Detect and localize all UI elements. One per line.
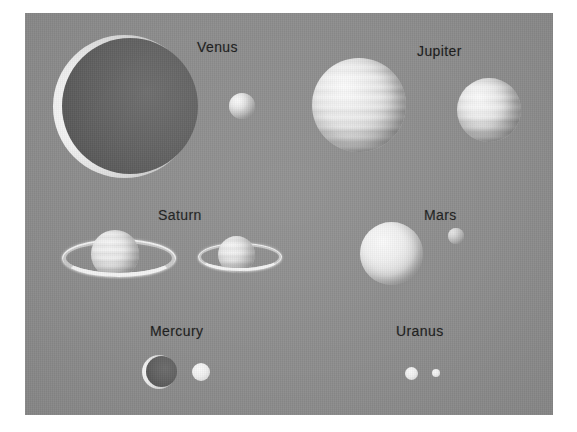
planet-uranus-large <box>405 367 418 380</box>
label-mercury: Mercury <box>150 323 203 339</box>
label-saturn: Saturn <box>158 207 202 223</box>
saturn-small-ring-front <box>198 243 282 271</box>
label-mars: Mars <box>424 207 457 223</box>
label-venus: Venus <box>197 39 238 55</box>
planet-jupiter-small <box>457 78 521 142</box>
planet-comparison-figure: Venus Jupiter Saturn Mars Mercury Uranus <box>0 0 577 432</box>
planet-mars-small <box>448 228 464 244</box>
planet-mars-large <box>360 222 423 285</box>
label-uranus: Uranus <box>396 323 444 339</box>
label-jupiter: Jupiter <box>417 43 462 59</box>
planet-mercury-large <box>142 355 176 389</box>
planet-jupiter-large <box>312 58 406 152</box>
planet-venus-large <box>53 35 196 178</box>
venus-large-disk <box>62 38 198 174</box>
planet-mercury-small <box>192 363 210 381</box>
planet-saturn-small <box>198 243 276 265</box>
image-plate: Venus Jupiter Saturn Mars Mercury Uranus <box>25 13 553 415</box>
mercury-large-disk <box>146 356 177 387</box>
planet-uranus-small <box>432 369 440 377</box>
saturn-large-ring-front <box>62 239 176 277</box>
planet-saturn-large <box>62 239 168 269</box>
planet-venus-small <box>229 93 255 119</box>
